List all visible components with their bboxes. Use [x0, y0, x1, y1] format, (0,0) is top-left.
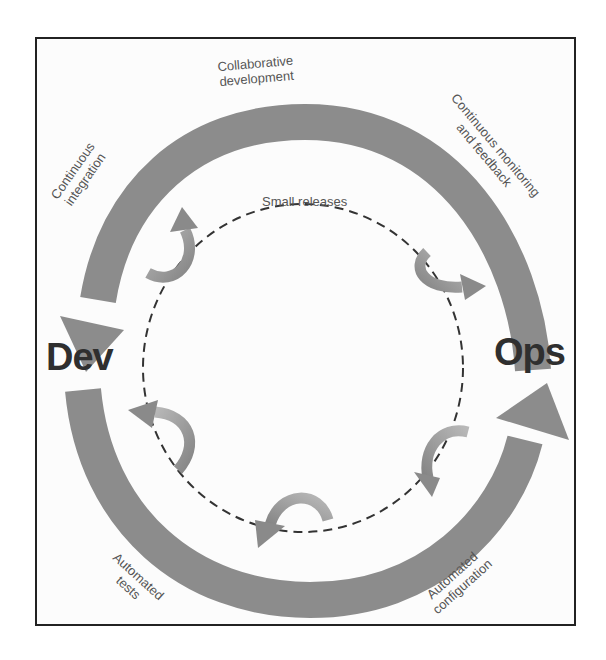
small-arrow-bottom-icon — [255, 498, 328, 548]
top-cycle-arrow — [60, 122, 533, 372]
small-arrow-upper-right-icon — [420, 252, 486, 300]
diagram-graphics — [0, 0, 606, 660]
node-ops: Ops — [494, 331, 565, 374]
small-arrow-upper-left-icon — [148, 207, 198, 277]
ops-arrowhead-icon — [496, 383, 569, 440]
label-small-releases: Small releases — [262, 194, 347, 209]
small-arrow-lower-left-icon — [128, 400, 190, 470]
small-arrow-lower-right-icon — [414, 431, 468, 497]
node-dev: Dev — [46, 336, 113, 379]
devops-diagram: Collaborative development Continuous int… — [0, 0, 606, 660]
